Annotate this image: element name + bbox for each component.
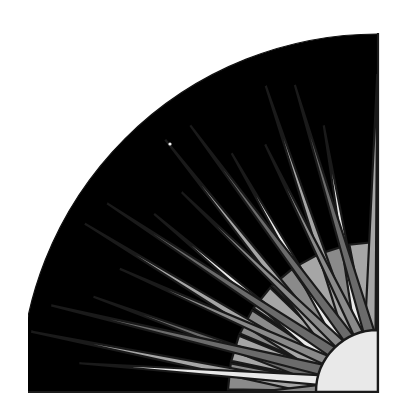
sunburst-illustration [0, 0, 406, 419]
star-speck-icon [168, 142, 171, 145]
